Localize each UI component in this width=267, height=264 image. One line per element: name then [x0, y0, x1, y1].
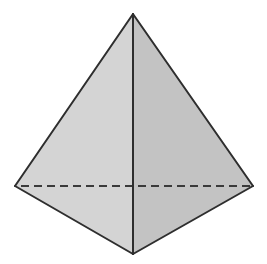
right-face — [133, 14, 253, 254]
tetrahedron-svg — [0, 0, 267, 264]
left-face — [15, 14, 133, 254]
tetrahedron-diagram — [0, 0, 267, 264]
